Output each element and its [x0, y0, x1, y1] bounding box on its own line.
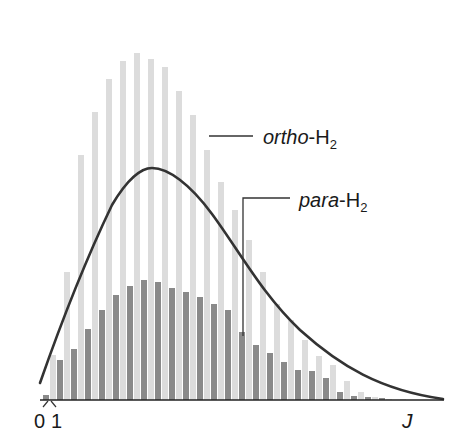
para-h2-bar	[127, 286, 133, 400]
ortho-h2-bar	[176, 91, 182, 400]
tick-marker-0	[43, 401, 48, 407]
para-h2-bar	[141, 280, 147, 400]
para-h2-label: para-H2	[298, 189, 367, 215]
ortho-para-hydrogen-distribution-chart: 0 1 J ortho-H2 para-H2	[0, 0, 472, 444]
para-h2-bar	[337, 392, 343, 400]
x-axis-label-j: J	[401, 409, 413, 432]
para-h2-bar	[183, 292, 189, 400]
ortho-h2-bar	[330, 365, 336, 400]
para-h2-bar	[281, 362, 287, 400]
ortho-h2-bar	[162, 67, 168, 400]
para-h2-bar	[85, 329, 91, 400]
ortho-h2-bar	[218, 182, 224, 400]
para-h2-bar	[99, 310, 105, 400]
ortho-h2-bar	[302, 340, 308, 400]
para-h2-bar	[113, 295, 119, 400]
para-h2-bar	[71, 349, 77, 400]
ortho-h2-bar	[358, 392, 364, 400]
para-h2-bar	[197, 297, 203, 400]
ortho-h2-bar	[120, 61, 126, 400]
para-h2-bar	[211, 304, 217, 400]
para-h2-bar	[295, 370, 301, 400]
x-tick-label-0: 0	[34, 410, 45, 432]
para-h2-bar	[225, 310, 231, 400]
para-h2-bar	[323, 378, 329, 400]
ortho-h2-bar	[274, 304, 280, 400]
para-h2-bar	[57, 360, 63, 400]
ortho-h2-bar	[344, 381, 350, 400]
para-h2-bar	[155, 282, 161, 400]
para-h2-bar	[239, 332, 245, 400]
ortho-h2-bar	[190, 115, 196, 400]
ortho-h2-bar	[50, 355, 56, 400]
ortho-h2-bar	[134, 53, 140, 400]
para-h2-bar	[253, 345, 259, 400]
ortho-h2-bar	[92, 112, 98, 400]
ortho-h2-bar	[316, 356, 322, 400]
ortho-h2-bar	[148, 59, 154, 400]
ortho-h2-label: ortho-H2	[263, 126, 337, 152]
x-tick-label-1: 1	[51, 410, 62, 432]
para-h2-bar	[169, 288, 175, 400]
ortho-h2-bar	[232, 210, 238, 400]
para-h2-bar	[309, 371, 315, 400]
para-h2-bar	[267, 353, 273, 400]
ortho-h2-bar	[204, 150, 210, 400]
ortho-h2-bar	[64, 272, 70, 400]
tick-marker-1	[51, 401, 56, 407]
ortho-h2-bar	[106, 79, 112, 400]
ortho-h2-bar	[288, 320, 294, 400]
